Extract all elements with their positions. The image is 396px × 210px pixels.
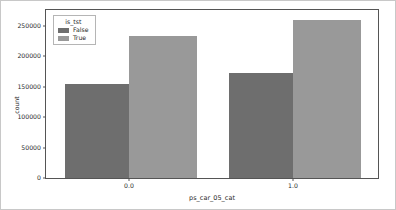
x-tick-label: 0.0 — [124, 183, 134, 189]
legend-label-false: False — [73, 27, 89, 33]
x-tick-mark — [293, 178, 294, 181]
y-axis-label: count — [13, 96, 20, 113]
x-axis-label: ps_car_05_cat — [189, 194, 235, 202]
chart-figure: 0 50000 100000 150000 200000 250000 0.0 … — [0, 0, 396, 210]
legend-item-false[interactable]: False — [58, 27, 89, 33]
plot-area: 0 50000 100000 150000 200000 250000 0.0 … — [45, 9, 379, 179]
legend-label-true: True — [73, 35, 86, 41]
legend[interactable]: is_tst False True — [53, 15, 96, 45]
x-tick-label: 1.0 — [288, 183, 298, 189]
y-tick-label: 0 — [37, 175, 46, 181]
bar-false-0[interactable] — [65, 84, 129, 178]
y-tick-label: 250000 — [17, 23, 46, 29]
legend-title: is_tst — [58, 19, 89, 25]
y-tick-label: 150000 — [17, 84, 46, 90]
y-tick-label: 200000 — [17, 53, 46, 59]
legend-swatch-true — [58, 36, 69, 41]
bar-true-1[interactable] — [293, 20, 362, 178]
bar-true-0[interactable] — [129, 36, 198, 178]
y-tick-label: 100000 — [17, 114, 46, 120]
legend-item-true[interactable]: True — [58, 35, 89, 41]
legend-swatch-false — [58, 28, 69, 33]
y-tick-label: 50000 — [21, 144, 46, 150]
bar-false-1[interactable] — [229, 73, 293, 178]
x-tick-mark — [129, 178, 130, 181]
